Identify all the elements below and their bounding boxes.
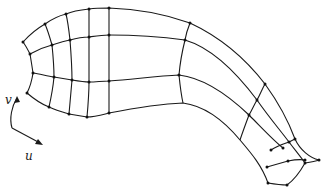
mesh-node (26, 92, 29, 95)
mesh-node (88, 36, 91, 39)
mesh-node (264, 83, 267, 86)
mesh-node (71, 79, 74, 82)
mesh-node (108, 80, 111, 83)
mesh-nodes (22, 7, 321, 187)
uv-axis-indicator: v u (5, 93, 43, 163)
mesh-node (108, 112, 111, 115)
surface-patch-diagram: v u (0, 0, 328, 192)
mesh-node (270, 149, 273, 152)
mesh-node (318, 159, 321, 162)
mesh-node (108, 34, 111, 37)
u-grid-line (179, 23, 190, 103)
mesh-node (44, 23, 47, 26)
mesh-node (69, 39, 72, 42)
mesh-node (22, 41, 25, 44)
mesh-node (65, 13, 68, 16)
v-arrowhead-icon (14, 96, 20, 103)
u-grid-line (87, 9, 89, 117)
u-axis-arrow (12, 128, 40, 143)
u-arrowhead-icon (35, 139, 43, 145)
v-isoparametric-lines (23, 8, 319, 183)
mesh-node (68, 113, 71, 116)
mesh-node (184, 39, 187, 42)
mesh-node (48, 106, 51, 109)
u-isoparametric-lines (23, 8, 319, 185)
mesh-node (86, 116, 89, 119)
mesh-node (266, 166, 269, 169)
v-axis-label: v (5, 93, 12, 107)
mesh-node (286, 184, 289, 187)
mesh-node (248, 114, 251, 117)
mesh-node (282, 147, 285, 150)
mesh-node (88, 8, 91, 11)
mesh-node (304, 159, 307, 162)
mesh-node (29, 53, 32, 56)
mesh-node (294, 138, 297, 141)
mesh-node (304, 162, 307, 165)
mesh-node (53, 76, 56, 79)
u-axis-label: u (25, 149, 33, 163)
mesh-node (32, 72, 35, 75)
u-grid-line (66, 14, 72, 114)
mesh-node (189, 22, 192, 25)
u-grid-line (240, 84, 265, 140)
mesh-node (267, 182, 270, 185)
u-grid-line (268, 160, 319, 185)
v-grid-line (27, 93, 268, 183)
v-grid-line (23, 8, 319, 160)
u-grid-line (267, 160, 305, 167)
mesh-node (178, 74, 181, 77)
mesh-node (108, 7, 111, 10)
v-grid-line (33, 73, 283, 148)
mesh-node (287, 160, 290, 163)
u-grid-line (23, 42, 33, 93)
mesh-node (51, 44, 54, 47)
mesh-node (256, 99, 259, 102)
u-grid-line (45, 24, 54, 107)
mesh-node (288, 141, 291, 144)
mesh-node (88, 81, 91, 84)
